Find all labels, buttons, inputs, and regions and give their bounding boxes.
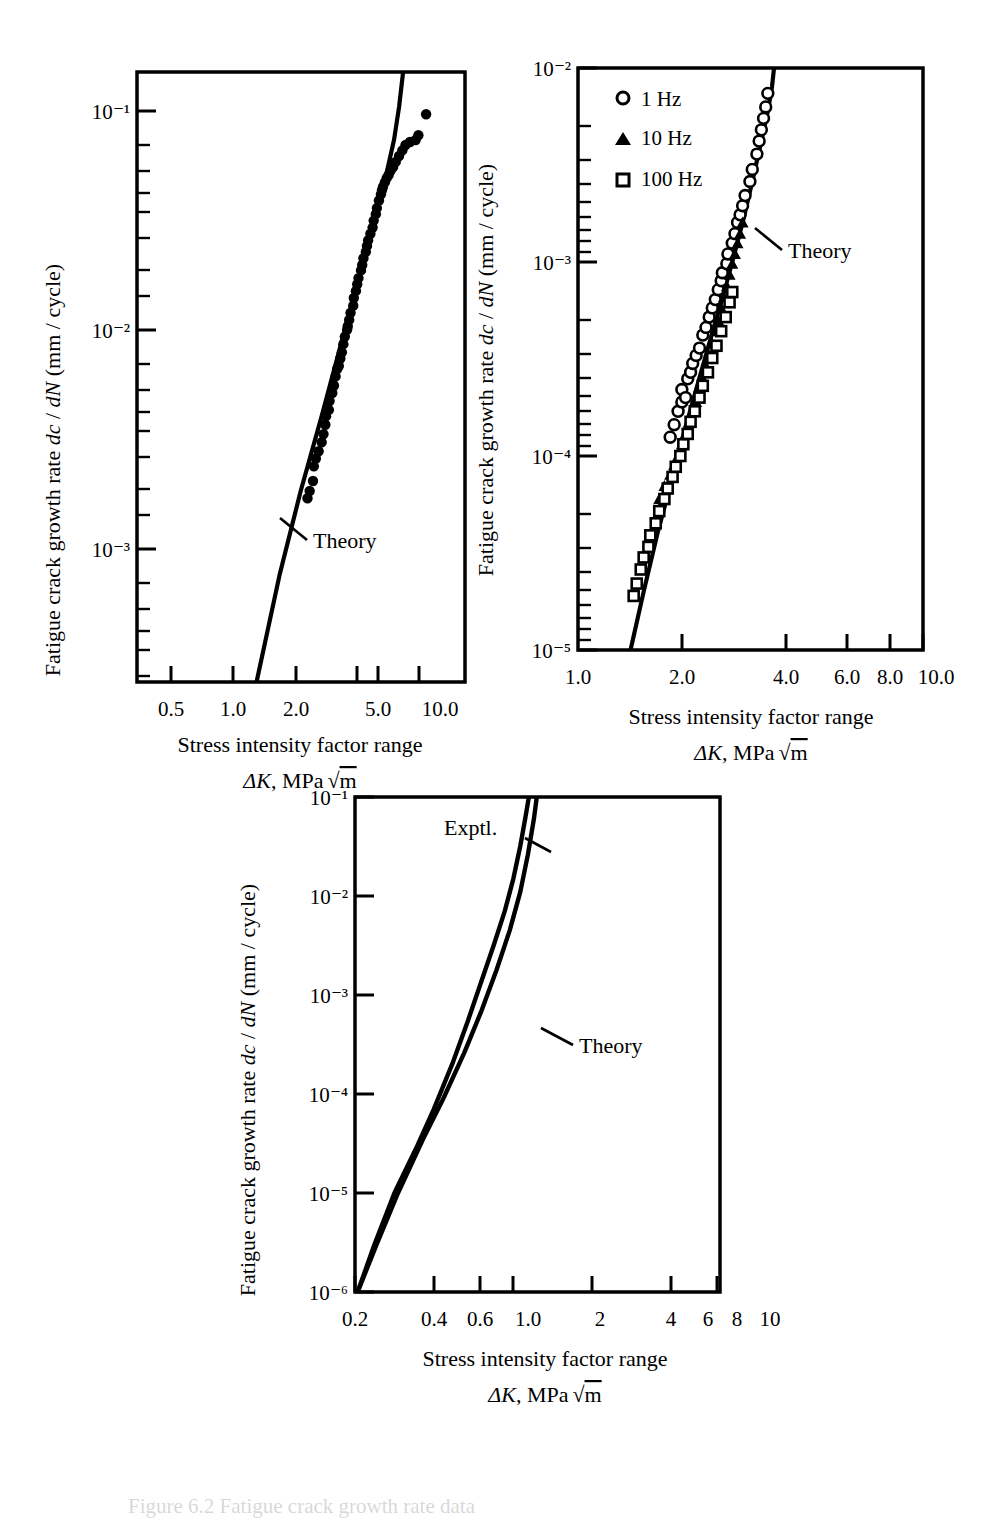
svg-text:Theory: Theory <box>579 1033 643 1058</box>
panel-b-legend: 1 Hz 10 Hz 100 Hz <box>615 87 702 191</box>
svg-text:Theory: Theory <box>788 238 852 263</box>
data-point <box>754 136 765 147</box>
svg-text:2.0: 2.0 <box>669 665 695 689</box>
data-point <box>745 176 756 187</box>
svg-text:10⁻⁶: 10⁻⁶ <box>309 1281 348 1305</box>
data-point <box>686 417 696 427</box>
svg-text:4.0: 4.0 <box>773 665 799 689</box>
data-point <box>703 367 713 377</box>
panel-c-x-tick-labels: 0.2 0.4 0.6 1.0 2 4 6 8 10 <box>342 1307 781 1331</box>
data-point <box>421 109 431 119</box>
figure-caption: Figure 6.2 Fatigue crack growth rate dat… <box>128 1494 475 1519</box>
data-point <box>762 88 773 99</box>
svg-text:10.0: 10.0 <box>422 697 459 721</box>
svg-text:Stress intensity factor range: Stress intensity factor range <box>423 1346 668 1371</box>
data-point <box>760 102 771 113</box>
data-point <box>747 164 758 175</box>
curve <box>358 797 529 1292</box>
data-point <box>413 130 423 140</box>
svg-text:ΔK, MPa√m: ΔK, MPa√m <box>693 740 807 765</box>
svg-text:1 Hz: 1 Hz <box>641 87 681 111</box>
data-point <box>304 486 314 496</box>
svg-text:10⁻²: 10⁻² <box>533 57 571 81</box>
svg-text:0.2: 0.2 <box>342 1307 368 1331</box>
panel-b-y-tick-labels: 10⁻² 10⁻³ 10⁻⁴ 10⁻⁵ <box>532 57 571 663</box>
legend-marker-open-circle <box>617 92 629 104</box>
data-point <box>308 476 318 486</box>
data-point <box>659 494 669 504</box>
svg-text:Stress intensity factor range: Stress intensity factor range <box>629 704 874 729</box>
svg-text:10⁻³: 10⁻³ <box>533 251 571 275</box>
svg-text:5.0: 5.0 <box>365 697 391 721</box>
data-point <box>695 393 705 403</box>
data-point <box>758 113 769 124</box>
data-point <box>318 429 328 439</box>
svg-text:Fatigue crack growth rate dc /: Fatigue crack growth rate dc / dN (mm / … <box>235 884 260 1296</box>
curve <box>257 72 404 682</box>
data-point <box>645 530 655 540</box>
data-point <box>329 380 339 390</box>
svg-text:1.0: 1.0 <box>515 1307 541 1331</box>
svg-text:1.0: 1.0 <box>565 665 591 689</box>
panel-c-plot-frame <box>355 797 720 1292</box>
svg-text:4: 4 <box>666 1307 677 1331</box>
svg-text:10⁻¹: 10⁻¹ <box>310 786 348 810</box>
data-point <box>707 353 717 363</box>
panel-b-x-ticks <box>682 634 923 650</box>
svg-text:10⁻³: 10⁻³ <box>310 984 348 1008</box>
data-point <box>663 483 673 493</box>
panel-a-chart: Fatigue crack growth rate dc / dN (mm / … <box>0 40 500 800</box>
data-point <box>680 392 691 403</box>
data-point <box>313 446 323 456</box>
panel-b-chart: Fatigue crack growth rate dc / dN (mm / … <box>455 40 1006 800</box>
data-point <box>756 124 767 135</box>
svg-text:Theory: Theory <box>313 528 377 553</box>
data-point <box>671 462 681 472</box>
svg-text:Fatigue crack growth rate dc /: Fatigue crack growth rate dc / dN (mm / … <box>40 264 65 676</box>
panel-b-y-axis-title: Fatigue crack growth rate dc / dN (mm / … <box>473 164 498 576</box>
panel-b-x-tick-labels: 1.0 2.0 4.0 6.0 8.0 10.0 <box>565 665 955 689</box>
panel-a-y-ticks <box>137 111 156 676</box>
svg-text:10.0: 10.0 <box>918 665 955 689</box>
data-point <box>636 564 646 574</box>
svg-text:10⁻²: 10⁻² <box>310 885 348 909</box>
data-point <box>643 542 653 552</box>
panel-b-x-axis-title: Stress intensity factor range ΔK, MPa√m <box>629 704 874 765</box>
svg-text:6: 6 <box>703 1307 714 1331</box>
svg-text:Fatigue crack growth rate dc /: Fatigue crack growth rate dc / dN (mm / … <box>473 164 498 576</box>
data-point <box>694 343 705 354</box>
data-point <box>683 429 693 439</box>
data-point <box>629 591 639 601</box>
data-point <box>698 381 708 391</box>
panel-c-theory-annotation: Theory <box>541 1028 643 1058</box>
panel-b-data-points <box>629 88 774 601</box>
panel-c-x-ticks <box>355 1276 717 1292</box>
svg-text:8: 8 <box>732 1307 743 1331</box>
data-point <box>632 579 642 589</box>
data-point <box>721 312 731 322</box>
svg-text:Exptl.: Exptl. <box>444 815 497 840</box>
svg-text:0.6: 0.6 <box>467 1307 493 1331</box>
data-point <box>675 451 685 461</box>
svg-text:10⁻⁵: 10⁻⁵ <box>309 1182 348 1206</box>
panel-c-y-ticks <box>355 797 374 1292</box>
data-point <box>727 287 737 297</box>
panel-a-y-tick-labels: 10⁻¹ 10⁻² 10⁻³ <box>92 100 130 562</box>
svg-text:2: 2 <box>595 1307 606 1331</box>
svg-text:6.0: 6.0 <box>834 665 860 689</box>
data-point <box>711 341 721 351</box>
panel-c-y-tick-labels: 10⁻¹ 10⁻² 10⁻³ 10⁻⁴ 10⁻⁵ 10⁻⁶ <box>309 786 348 1305</box>
legend-marker-open-square <box>617 174 629 186</box>
panel-b-theory-annotation: Theory <box>755 228 852 263</box>
data-point <box>740 190 751 201</box>
data-point <box>665 432 676 443</box>
panel-c-curves <box>358 797 537 1292</box>
data-point <box>651 518 661 528</box>
panel-a-theory-line <box>257 72 404 682</box>
svg-text:10⁻²: 10⁻² <box>92 319 130 343</box>
panel-b-y-ticks <box>578 68 597 650</box>
svg-text:10⁻⁴: 10⁻⁴ <box>532 445 571 469</box>
svg-text:10⁻⁵: 10⁻⁵ <box>532 639 571 663</box>
data-point <box>725 297 735 307</box>
data-point <box>716 326 726 336</box>
